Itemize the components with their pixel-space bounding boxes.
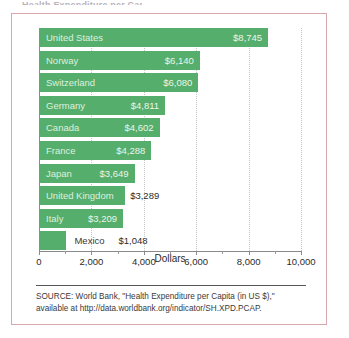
bar-category-label: Switzerland (46, 73, 95, 92)
bar-row: United States$8,745 (39, 28, 301, 47)
bar-row: Norway$6,140 (39, 51, 301, 70)
bar-category-label: Canada (46, 118, 79, 137)
bar-category-label: Japan (46, 164, 72, 183)
source-line-1: SOURCE: World Bank, "Health Expenditure … (36, 291, 316, 303)
bar-value-label: $4,602 (125, 118, 154, 137)
bar-row: France$4,288 (39, 141, 301, 160)
bar (39, 231, 66, 250)
bar-chart: United States$8,745Norway$6,140Switzerla… (12, 14, 328, 272)
bar-row: United Kingdom$3,289 (39, 186, 301, 205)
bar-row: Mexico$1,048 (39, 231, 301, 250)
bar-value-label: $8,745 (233, 28, 262, 47)
bar-category-label: Mexico (74, 231, 104, 250)
bar-category-label: United Kingdom (46, 186, 114, 205)
bar-value-label: $4,811 (131, 96, 159, 115)
plot-area: United States$8,745Norway$6,140Switzerla… (39, 28, 301, 251)
bar-category-label: Norway (46, 51, 78, 70)
bar-row: Canada$4,602 (39, 118, 301, 137)
figure-title-cutoff: Health Expenditure per Capita, 2012 (22, 0, 142, 5)
bar-value-label: $3,289 (130, 186, 159, 205)
bar-rows: United States$8,745Norway$6,140Switzerla… (39, 28, 301, 251)
bar-category-label: France (46, 141, 76, 160)
bar-row: Japan$3,649 (39, 164, 301, 183)
bar-value-label: $3,209 (88, 209, 117, 228)
bar-category-label: Germany (46, 96, 85, 115)
bar-value-label: $6,140 (165, 51, 194, 70)
bar-value-label: $4,288 (116, 141, 145, 160)
bar-row: Switzerland$6,080 (39, 73, 301, 92)
bar-category-label: Italy (46, 209, 63, 228)
figure-container: United States$8,745Norway$6,140Switzerla… (11, 13, 327, 325)
bar-row: Italy$3,209 (39, 209, 301, 228)
source-note: SOURCE: World Bank, "Health Expenditure … (36, 291, 316, 314)
bar-value-label: $6,080 (163, 73, 192, 92)
bar-value-label: $1,048 (118, 231, 147, 250)
bar-row: Germany$4,811 (39, 96, 301, 115)
bar-value-label: $3,649 (100, 164, 129, 183)
gridline (301, 28, 302, 251)
source-divider (36, 285, 306, 286)
bar-category-label: United States (46, 28, 103, 47)
source-line-2: available at http://data.worldbank.org/i… (36, 303, 316, 315)
x-axis-title: Dollars (12, 253, 328, 264)
